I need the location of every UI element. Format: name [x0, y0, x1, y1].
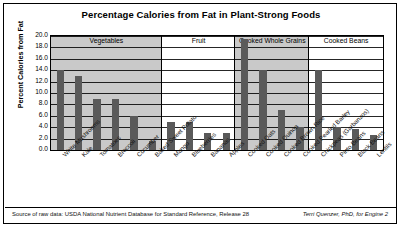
- y-tick-label: 6.0: [39, 112, 48, 119]
- footer-credit: Terri Quenzer, PhD, for Engine 2: [303, 211, 388, 217]
- y-tick-label: 20.0: [35, 32, 48, 39]
- y-tick-label: 8.0: [39, 100, 48, 107]
- chart-frame: Percentage Calories from Fat in Plant-St…: [3, 3, 397, 224]
- band-header-label: Vegetables: [51, 36, 162, 150]
- y-tick-label: 12.0: [35, 78, 48, 85]
- y-axis-tick-labels: 20.018.016.014.012.010.08.06.04.02.00.0: [24, 32, 48, 154]
- bar: [57, 70, 64, 150]
- x-axis-tick-labels: White MushroomsKaleTomatoesBroccoliCucum…: [50, 152, 384, 204]
- y-tick-label: 0.0: [39, 146, 48, 153]
- y-tick-label: 18.0: [35, 43, 48, 50]
- footer-divider: [5, 207, 397, 208]
- y-tick-label: 4.0: [39, 123, 48, 130]
- chart-title: Percentage Calories from Fat in Plant-St…: [4, 9, 398, 20]
- footer-source: Source of raw data: USDA National Nutrie…: [12, 211, 249, 217]
- y-tick-label: 2.0: [39, 135, 48, 142]
- plot-area: VegetablesFruitCooked Whole GrainsCooked…: [50, 35, 384, 151]
- y-tick-label: 14.0: [35, 66, 48, 73]
- y-tick-label: 16.0: [35, 55, 48, 62]
- bar: [241, 39, 248, 150]
- y-tick-label: 10.0: [35, 89, 48, 96]
